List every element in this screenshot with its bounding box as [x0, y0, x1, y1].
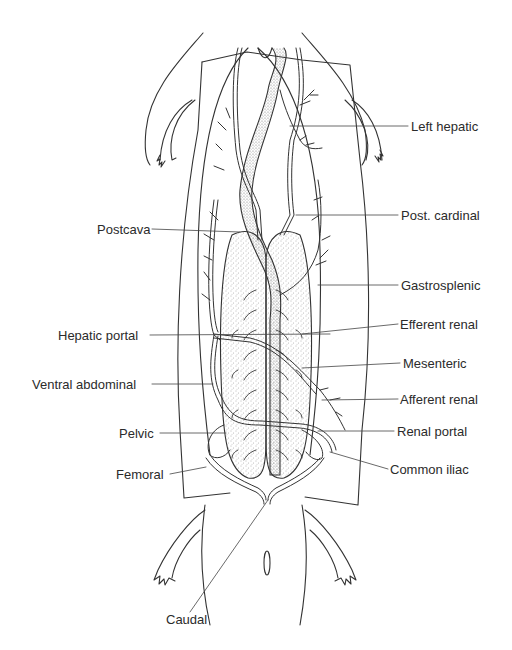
label-common-iliac: Common iliac: [390, 462, 469, 477]
label-afferent-renal: Afferent renal: [400, 392, 478, 407]
label-post-cardinal: Post. cardinal: [401, 208, 480, 223]
label-femoral: Femoral: [116, 467, 164, 482]
label-hepatic-portal: Hepatic portal: [58, 328, 138, 343]
label-postcava: Postcava: [97, 222, 150, 237]
label-renal-portal: Renal portal: [397, 424, 467, 439]
label-gastrosplenic: Gastrosplenic: [401, 278, 480, 293]
label-ventral-abdominal: Ventral abdominal: [32, 377, 136, 392]
label-mesenteric: Mesenteric: [403, 356, 467, 371]
label-pelvic: Pelvic: [119, 426, 154, 441]
label-efferent-renal: Efferent renal: [400, 317, 478, 332]
label-left-hepatic: Left hepatic: [411, 119, 478, 134]
label-caudal: Caudal: [166, 612, 207, 627]
